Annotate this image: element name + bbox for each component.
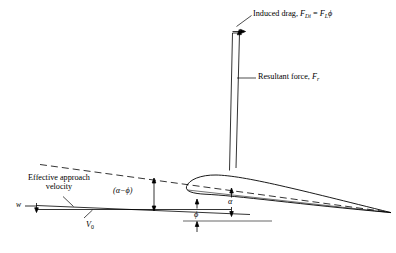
alpha-label: α: [228, 197, 232, 206]
induced-drag-label: Induced drag, FDi = FLϕ: [253, 9, 332, 19]
w-label: w: [16, 201, 21, 210]
figure-canvas: Induced drag, FDi = FLϕ Resultant force,…: [0, 0, 396, 253]
resultant-force-f-sub: r: [317, 76, 319, 82]
effective-approach-velocity-label: Effective approach velocity: [13, 173, 105, 191]
alpha-minus-phi-label: (α−ϕ): [113, 186, 133, 195]
induced-drag-equals: =: [311, 9, 320, 18]
v0-leader-line: [84, 210, 93, 218]
alpha-arrow-upper-head: [230, 188, 234, 193]
alpha-minus-phi-arrow-head-top: [152, 178, 156, 183]
phi-arrow-upper-head: [195, 199, 199, 204]
induced-drag-text: Induced drag,: [253, 9, 298, 18]
airfoil-outline: [186, 175, 391, 213]
phi-arrow-lower-head: [195, 222, 199, 227]
v0-sub: 0: [91, 224, 94, 230]
v0-label: V0: [86, 220, 94, 230]
resultant-velocity-line: [37, 206, 251, 215]
induced-drag-arrow-head: [241, 29, 246, 33]
w-arrow: [25, 203, 38, 213]
induced-drag-leader-line: [237, 16, 252, 27]
alpha-arrow-lower-head: [230, 212, 234, 217]
resultant-force-vector: [230, 33, 240, 171]
resultant-vector-left-edge: [230, 33, 233, 171]
effective-approach-leader-line: [63, 197, 74, 207]
resultant-force-label: Resultant force, Fr: [258, 72, 319, 82]
resultant-vector-right-edge: [236, 33, 240, 168]
w-arrow-head: [35, 208, 39, 213]
effective-approach-line2: velocity: [13, 182, 105, 191]
phi-label: ϕ: [194, 210, 198, 219]
alpha-minus-phi-dimension-arrow: [152, 178, 156, 211]
effective-approach-line1: Effective approach: [13, 173, 105, 182]
resultant-force-text: Resultant force,: [258, 72, 310, 81]
induced-drag-rhs-phi: ϕ: [328, 9, 332, 18]
